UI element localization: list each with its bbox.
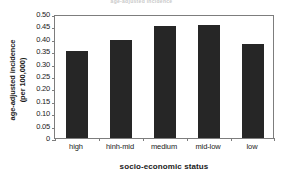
- x-axis-tick-label: hinh-mid: [106, 142, 134, 152]
- y-axis-tick-mark: [52, 115, 55, 116]
- y-axis-tick-mark: [52, 128, 55, 129]
- y-axis-tick-label: 0.40: [36, 36, 50, 44]
- x-axis-tick-label: mid-low: [195, 142, 220, 152]
- y-axis-tick-mark: [52, 78, 55, 79]
- bar: [110, 40, 132, 138]
- chart-title: age-adjusted incidence: [0, 0, 283, 4]
- x-axis-tick-mark: [231, 138, 232, 141]
- plot-inner: [55, 16, 273, 138]
- bar: [66, 51, 88, 138]
- y-axis-tick-label: 0.45: [36, 23, 50, 31]
- y-axis-tick-label: 0.30: [36, 61, 50, 69]
- y-axis-tick-mark: [52, 103, 55, 104]
- y-axis-title-line-1: age-adjusted incidence: [8, 40, 18, 121]
- x-axis-tick-label: high: [69, 142, 83, 152]
- y-axis-tick-label: 0.05: [36, 123, 50, 131]
- y-axis-tick-mark: [52, 41, 55, 42]
- chart-figure: age-adjusted incidence age-adjusted inci…: [0, 0, 283, 185]
- x-axis-tick-label: medium: [151, 142, 177, 152]
- x-axis-tick-mark: [274, 138, 275, 141]
- x-axis-tick-label: low: [247, 142, 258, 152]
- x-axis-tick-labels: highhinh-midmediummid-lowlow: [54, 142, 274, 154]
- x-axis-tick-mark: [55, 138, 56, 141]
- bar: [198, 25, 220, 138]
- y-axis-tick-label: 0.10: [36, 110, 50, 118]
- y-axis-tick-mark: [52, 66, 55, 67]
- y-axis-tick-label: 0.15: [36, 98, 50, 106]
- bar: [242, 44, 264, 138]
- x-axis-tick-mark: [99, 138, 100, 141]
- y-axis-tick-label: 0.50: [36, 11, 50, 19]
- y-axis-title: age-adjusted incidence (per 100,000): [6, 18, 28, 142]
- y-axis-tick-mark: [52, 28, 55, 29]
- bar: [154, 26, 176, 138]
- y-axis-tick-labels: 00.050.100.150.200.250.300.350.400.450.5…: [26, 14, 52, 140]
- plot-area: [54, 15, 274, 139]
- y-axis-tick-mark: [52, 53, 55, 54]
- y-axis-tick-mark: [52, 16, 55, 17]
- x-axis-title: socio-economic status: [54, 162, 274, 171]
- y-axis-tick-label: 0.35: [36, 48, 50, 56]
- x-axis-tick-mark: [143, 138, 144, 141]
- y-axis-tick-mark: [52, 90, 55, 91]
- y-axis-tick-label: 0.20: [36, 85, 50, 93]
- y-axis-tick-label: 0.25: [36, 73, 50, 81]
- x-axis-tick-mark: [187, 138, 188, 141]
- y-axis-tick-label: 0: [46, 135, 50, 143]
